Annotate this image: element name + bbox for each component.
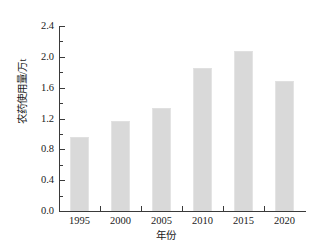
y-tick-mark (60, 88, 65, 89)
y-tick-mark (60, 149, 65, 150)
x-axis-title: 年份 (0, 230, 331, 241)
x-tick-mark (223, 206, 224, 211)
y-minor-tick-mark (60, 72, 63, 73)
x-axis-spine (59, 211, 306, 212)
y-minor-tick-mark (60, 134, 63, 135)
y-tick-label: 0.0 (14, 206, 54, 217)
y-minor-tick-mark (60, 41, 63, 42)
y-axis-title: 农药使用量/万t (17, 27, 28, 157)
bar (70, 137, 89, 211)
bar (111, 121, 130, 211)
x-tick-mark (182, 206, 183, 211)
y-tick-label: 0.4 (14, 175, 54, 186)
bar (193, 68, 212, 211)
y-tick-mark (60, 180, 65, 181)
y-minor-tick-mark (60, 103, 63, 104)
x-tick-mark (141, 206, 142, 211)
y-tick-mark (60, 211, 65, 212)
y-tick-mark (60, 26, 65, 27)
y-tick-mark (60, 57, 65, 58)
bar (275, 81, 294, 211)
bar (152, 108, 171, 211)
bar-chart-figure: 0.00.40.81.21.62.02.4 199520002005201020… (0, 0, 331, 249)
x-tick-mark (100, 206, 101, 211)
x-tick-mark (264, 206, 265, 211)
y-tick-mark (60, 119, 65, 120)
y-minor-tick-mark (60, 196, 63, 197)
y-minor-tick-mark (60, 165, 63, 166)
x-tick-label: 2020 (261, 215, 309, 227)
bar (234, 51, 253, 211)
